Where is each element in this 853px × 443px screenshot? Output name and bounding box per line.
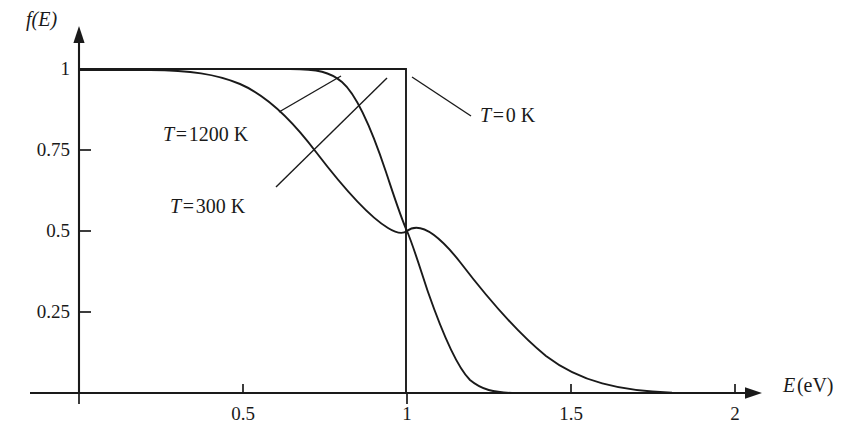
y-tick-label-1: 1 [18,59,70,78]
curve-T-1200K [79,70,745,393]
series-label-1200K-value: 1200 K [189,123,248,145]
series-label-300K-equals: = [183,195,194,217]
series-label-0K-symbol: T [480,104,491,126]
series-label-300K: T = 300 K [170,196,245,216]
x-axis-title-symbol: E [783,374,795,396]
y-tick-label-0.5: 0.5 [12,221,70,240]
x-axis-ticks [79,384,735,404]
series-label-1200K-equals: = [176,123,187,145]
series-label-0K: T = 0 K [480,105,535,125]
plot-canvas [0,0,853,443]
y-axis-title-text: f(E) [26,8,57,30]
x-axis-arrowhead [745,387,762,399]
series-label-1200K-symbol: T [163,123,174,145]
leader-line-0K [412,77,471,116]
x-axis-title: E (eV) [783,375,834,395]
series-label-1200K: T = 1200 K [163,124,248,144]
y-tick-label-0.25: 0.25 [12,302,70,321]
series-label-0K-value: 0 K [506,104,535,126]
x-tick-label-1.5: 1.5 [541,404,601,423]
y-axis [73,26,84,393]
leader-line-1200K [279,76,341,112]
x-tick-label-0.5: 0.5 [213,404,273,423]
x-axis [30,387,762,399]
y-axis-arrowhead [73,26,84,43]
series-label-0K-equals: = [493,104,504,126]
fermi-dirac-chart: f(E) E (eV) 1 0.75 0.5 0.25 0.5 1 1.5 2 … [0,0,853,443]
curve-T-0K [79,69,406,393]
x-axis-title-unit: (eV) [797,374,834,396]
y-tick-label-0.75: 0.75 [12,140,70,159]
series-label-300K-symbol: T [170,195,181,217]
series-label-300K-value: 300 K [196,195,245,217]
annotation-leader-lines [276,76,471,187]
y-axis-title: f(E) [26,9,57,29]
x-tick-label-1: 1 [377,404,437,423]
x-tick-label-2: 2 [705,404,765,423]
y-axis-ticks [79,69,91,312]
